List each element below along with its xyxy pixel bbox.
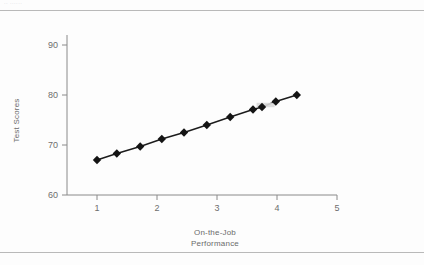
data-point-marker xyxy=(226,113,234,121)
page-header-scrap: ·· ······ xyxy=(4,0,22,6)
scanned-page: ·· ······ 6070809012345 On-the-Job Perfo… xyxy=(0,0,424,265)
y-tick-label: 60 xyxy=(48,190,58,200)
x-tick-label: 2 xyxy=(154,203,159,213)
data-point-marker xyxy=(93,156,101,164)
x-tick-label: 1 xyxy=(94,203,99,213)
data-point-marker xyxy=(293,91,301,99)
x-axis-title-line2: Performance xyxy=(160,238,270,249)
x-tick-label: 3 xyxy=(214,203,219,213)
data-point-marker xyxy=(249,105,257,113)
y-tick-label: 70 xyxy=(48,140,58,150)
x-axis-title-line1: On-the-Job xyxy=(160,227,270,238)
chart-canvas: 6070809012345 xyxy=(0,10,424,252)
y-tick-label: 80 xyxy=(48,90,58,100)
y-axis-title: Test Scores xyxy=(11,91,22,151)
data-point-marker xyxy=(203,121,211,129)
chart-figure: 6070809012345 On-the-Job Performance Tes… xyxy=(0,10,424,252)
x-axis-title: On-the-Job Performance xyxy=(160,227,270,249)
x-tick-label: 4 xyxy=(274,203,279,213)
x-tick-label: 5 xyxy=(334,203,339,213)
bottom-rule xyxy=(0,252,424,253)
y-tick-label: 90 xyxy=(48,40,58,50)
data-point-marker xyxy=(180,128,188,136)
data-point-marker xyxy=(158,135,166,143)
data-point-marker xyxy=(113,149,121,157)
data-point-marker xyxy=(136,142,144,150)
